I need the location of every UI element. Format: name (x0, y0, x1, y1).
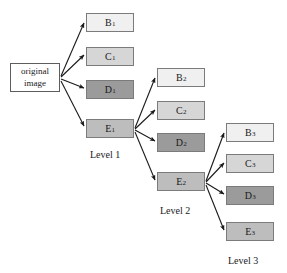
arrow-E2-to-B3 (206, 133, 224, 181)
node-subscript: 2 (183, 180, 187, 187)
node-subscript: 1 (112, 21, 116, 28)
node-letter: C (176, 106, 183, 116)
arrow-original-image-to-B1 (61, 23, 84, 76)
arrow-original-image-to-C1 (61, 55, 84, 77)
node-letter: E (105, 124, 111, 134)
node-letter: B (245, 128, 252, 138)
arrow-original-image-to-E1 (61, 81, 84, 126)
node-letter: E (176, 177, 182, 187)
node-e1: E1 (86, 119, 134, 138)
arrow-E1-to-B2 (135, 78, 155, 128)
original-image-label-line1: original (21, 66, 49, 77)
level-label-2: Level 2 (160, 205, 190, 216)
node-e3: E3 (226, 222, 274, 241)
node-d1: D1 (86, 80, 134, 99)
node-c1: C1 (86, 47, 134, 66)
node-b2: B2 (157, 68, 205, 87)
node-subscript: 3 (252, 131, 256, 138)
node-subscript: 2 (183, 109, 187, 116)
level-label-3: Level 3 (228, 255, 258, 266)
node-e2: E2 (157, 172, 205, 191)
node-subscript: 2 (183, 76, 187, 83)
node-subscript: 2 (183, 141, 187, 148)
decomposition-tree-diagram: original image B1C1D1E1B2C2D2E2B3C3D3E3 … (0, 0, 287, 273)
node-letter: D (245, 191, 252, 201)
node-letter: C (105, 52, 112, 62)
node-d2: D2 (157, 133, 205, 152)
node-b3: B3 (226, 123, 274, 142)
original-image-label-line2: image (24, 78, 46, 89)
node-subscript: 1 (112, 55, 116, 62)
node-d3: D3 (226, 186, 274, 205)
node-subscript: 1 (112, 88, 116, 95)
node-letter: D (176, 138, 183, 148)
node-original-image: original image (10, 63, 60, 92)
node-letter: B (176, 73, 183, 83)
node-c2: C2 (157, 101, 205, 120)
node-c3: C3 (226, 154, 274, 173)
node-letter: E (245, 227, 251, 237)
node-b1: B1 (86, 13, 134, 32)
node-subscript: 3 (252, 230, 256, 237)
node-subscript: 3 (252, 194, 256, 201)
level-label-1: Level 1 (90, 149, 120, 160)
node-letter: B (105, 18, 112, 28)
node-letter: C (245, 159, 252, 169)
node-subscript: 1 (112, 127, 116, 134)
node-subscript: 3 (252, 162, 256, 169)
node-letter: D (105, 85, 112, 95)
